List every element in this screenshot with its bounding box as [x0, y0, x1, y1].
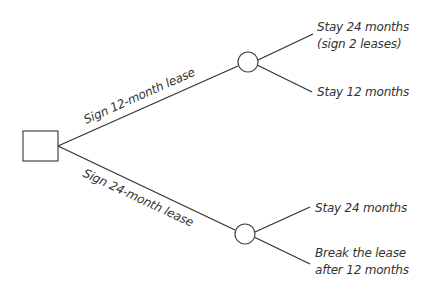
outcome-label-break-line2: after 12 months [315, 263, 409, 277]
edge-stay-24-months-bottom [255, 207, 310, 232]
edge-sign-12-month [58, 66, 238, 146]
branch-label-24-month: Sign 24-month lease [81, 166, 196, 230]
outcome-label-stay-12: Stay 12 months [317, 85, 409, 99]
outcome-label-stay-24-bottom: Stay 24 months [315, 201, 407, 215]
outcome-label-stay-24-line2: (sign 2 leases) [317, 37, 401, 51]
chance-node-12-month [238, 52, 258, 72]
edge-stay-24-months-top [258, 34, 313, 60]
chance-node-24-month [235, 224, 255, 244]
decision-tree-diagram: Sign 12-month lease Sign 24-month lease … [0, 0, 429, 293]
branch-label-12-month: Sign 12-month lease [82, 65, 198, 127]
outcome-label-stay-24-line1: Stay 24 months [317, 20, 409, 34]
outcome-label-break-line1: Break the lease [315, 246, 406, 260]
edge-sign-24-month [58, 146, 235, 230]
edge-stay-12-months [257, 65, 312, 92]
decision-node-square [23, 131, 58, 161]
edge-break-lease [254, 237, 310, 264]
